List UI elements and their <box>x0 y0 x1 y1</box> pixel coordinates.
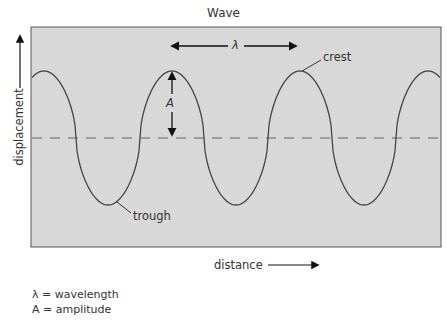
wave-diagram <box>0 0 447 325</box>
crest-label: crest <box>323 50 351 64</box>
diagram-title: Wave <box>0 6 447 20</box>
trough-label: trough <box>133 209 171 223</box>
amplitude-symbol: A <box>166 96 174 110</box>
legend-item-amplitude: A = amplitude <box>32 302 119 317</box>
y-axis-label: displacement <box>12 82 26 172</box>
legend: λ = wavelength A = amplitude <box>32 287 119 317</box>
x-axis-label: distance <box>214 258 263 272</box>
legend-item-wavelength: λ = wavelength <box>32 287 119 302</box>
plot-area <box>31 27 441 247</box>
wavelength-symbol: λ <box>232 38 239 52</box>
